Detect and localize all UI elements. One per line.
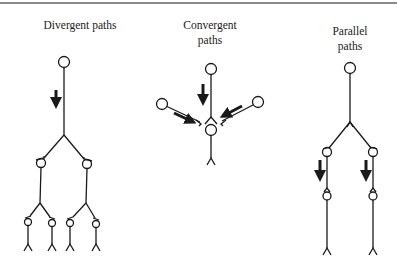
dendrite-icon	[66, 244, 74, 251]
node-circle	[59, 57, 70, 68]
arrow-left-down-icon	[225, 106, 242, 115]
diagram-canvas	[0, 0, 397, 261]
dendrite-icon	[207, 158, 215, 165]
dendrite-icon	[24, 244, 32, 251]
dendrite-icon	[92, 244, 100, 251]
parallel-diagram	[320, 63, 378, 256]
dendrite-icon	[369, 248, 377, 255]
dendrite-icon	[48, 244, 56, 251]
divergent-diagram	[24, 57, 100, 252]
target-node	[206, 125, 217, 136]
dendrite-icon	[323, 248, 331, 255]
convergent-diagram	[157, 64, 264, 166]
